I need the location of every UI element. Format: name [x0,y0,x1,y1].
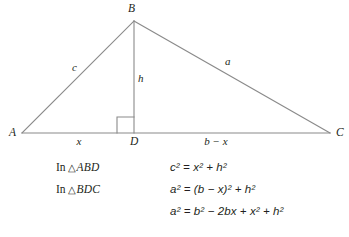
equation-expression: a² = (b − x)² + h² [170,182,255,196]
vertex-label-c: C [336,127,344,138]
right-angle-marker [117,117,134,133]
triangle-prefix: In [56,161,66,173]
side-bc [134,21,330,133]
triangle-reference-abd: In△ABD [56,161,100,174]
side-label-c: c [72,62,77,73]
equation-expression: c² = x² + h² [170,160,227,174]
triangle-svg [0,0,349,160]
segment-label-b-minus-x: b − x [193,136,239,147]
altitude-label-h: h [138,73,144,84]
triangle-symbol-icon: △ [66,184,77,195]
equation-row-bdc: In△BDC a² = (b − x)² + h² [0,180,349,202]
vertex-label-a: A [9,127,16,138]
equation-list: In△ABD c² = x² + h² In△BDC a² = (b − x)²… [0,158,349,237]
side-label-a: a [225,56,231,67]
side-ab [22,21,134,133]
vertex-label-d: D [130,136,138,147]
triangle-name: BDC [77,183,101,195]
triangle-diagram: B A C D c a h x b − x [0,0,349,160]
segment-label-x: x [70,136,88,147]
equation-row-abd: In△ABD c² = x² + h² [0,158,349,180]
triangle-reference-bdc: In△BDC [56,183,100,196]
triangle-prefix: In [56,183,66,195]
vertex-label-b: B [128,3,135,14]
triangle-symbol-icon: △ [66,162,77,173]
triangle-name: ABD [77,161,100,173]
equation-row-expanded: a² = b² − 2bx + x² + h² [0,202,349,224]
equation-expression: a² = b² − 2bx + x² + h² [170,204,284,218]
